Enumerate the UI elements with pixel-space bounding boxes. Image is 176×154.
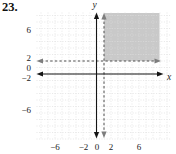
y-tick-label-neg6: −6: [8, 105, 31, 115]
y-tick-label-neg2: −2: [8, 73, 31, 83]
x-tick-label-2: 2: [102, 142, 120, 152]
x-axis-label: x: [167, 72, 171, 82]
y-axis-label: y: [93, 0, 97, 10]
x-axis-left-arrow-icon: [37, 71, 44, 76]
y-tick-label-2: 2: [8, 53, 31, 63]
shaded-region: [104, 13, 160, 61]
textbook-graph-figure: 23. 6 2 0 −2 −6 −6 −2 0 2 6 x y: [0, 0, 176, 154]
dashed-y2-left-arrow-icon: [37, 58, 44, 63]
y-axis-down-arrow-icon: [94, 132, 99, 139]
y-tick-label-0: 0: [8, 63, 31, 73]
dashed-x1-down-arrow-icon: [101, 132, 106, 139]
x-tick-label-neg6: −6: [46, 142, 64, 152]
y-tick-label-6: 6: [8, 25, 31, 35]
x-tick-label-6: 6: [130, 142, 148, 152]
